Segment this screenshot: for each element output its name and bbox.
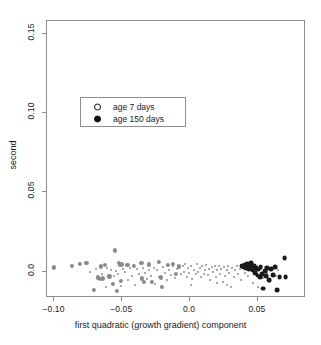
data-point [172, 265, 174, 267]
data-point [142, 267, 144, 269]
y-tick-label: 0.0 [26, 259, 36, 281]
data-point [153, 267, 155, 269]
data-point [166, 279, 168, 281]
data-point [89, 271, 91, 273]
data-point [247, 275, 249, 277]
data-point [186, 276, 188, 278]
data-point [157, 260, 161, 264]
data-point [272, 265, 277, 270]
data-point [283, 275, 288, 280]
data-point [191, 278, 193, 280]
data-point [110, 269, 112, 271]
data-point [160, 285, 164, 289]
data-point [146, 278, 148, 280]
data-point [228, 272, 230, 274]
data-point [144, 272, 146, 274]
data-point [195, 273, 197, 275]
data-point [227, 265, 229, 267]
data-point [131, 275, 133, 277]
data-point [233, 276, 235, 278]
data-point [183, 271, 185, 273]
data-point [101, 273, 103, 275]
data-point [208, 268, 210, 270]
x-axis-title: first quadratic (growth gradient) compon… [75, 320, 247, 330]
data-point [226, 269, 228, 271]
data-point [222, 281, 224, 283]
data-point [142, 280, 146, 284]
x-tick [53, 297, 54, 301]
data-point [244, 272, 246, 274]
data-point [236, 265, 238, 267]
data-point [261, 286, 266, 291]
data-point [113, 248, 117, 252]
data-point [119, 262, 123, 266]
data-point [127, 279, 129, 281]
data-point [148, 269, 150, 271]
data-point [78, 262, 82, 266]
y-tick [42, 191, 46, 192]
data-point [207, 274, 209, 276]
data-point [277, 269, 279, 271]
data-point [226, 284, 228, 286]
data-point [211, 266, 213, 268]
data-point [115, 289, 119, 293]
y-tick [42, 271, 46, 272]
data-point [118, 279, 122, 283]
data-point [240, 279, 242, 281]
x-tick-label: −0.05 [110, 304, 132, 314]
data-point [106, 267, 108, 269]
data-point [105, 286, 107, 288]
legend-label-age-150-days: age 150 days [113, 114, 164, 124]
x-tick-label: 0.0 [183, 304, 195, 314]
data-point [277, 274, 282, 279]
data-point [115, 270, 117, 272]
data-point [158, 276, 160, 278]
data-point [204, 269, 206, 271]
data-point [257, 286, 259, 288]
data-point [147, 262, 151, 266]
data-point [92, 288, 96, 292]
data-point [270, 273, 275, 278]
data-point [168, 269, 170, 271]
data-point [95, 268, 97, 270]
data-point [197, 271, 199, 273]
data-point [218, 265, 220, 267]
data-point [120, 285, 122, 287]
data-point [188, 272, 190, 274]
data-point [252, 282, 254, 284]
y-tick-label: 0.15 [26, 21, 36, 43]
data-point [111, 281, 115, 285]
filled-circle-icon [94, 115, 101, 122]
data-point [134, 284, 136, 286]
data-point [154, 283, 156, 285]
data-point [176, 268, 178, 270]
data-point [107, 274, 111, 278]
x-tick [257, 297, 258, 301]
y-tick-label: 0.05 [26, 179, 36, 201]
data-point [100, 276, 104, 280]
data-point [212, 271, 214, 273]
y-tick [42, 33, 46, 34]
y-axis-title: second [8, 140, 18, 169]
data-point [136, 268, 138, 270]
data-point [170, 274, 172, 276]
data-point [187, 267, 189, 269]
x-tick [189, 297, 190, 301]
data-point [174, 272, 178, 276]
data-point [237, 273, 239, 275]
data-point [52, 265, 56, 269]
data-point [209, 279, 211, 281]
data-point [190, 265, 192, 267]
data-point [190, 284, 192, 286]
data-point [201, 265, 203, 267]
data-point [203, 273, 205, 275]
data-point [70, 264, 74, 268]
data-point [231, 267, 233, 269]
data-point [214, 265, 216, 267]
data-point [156, 269, 158, 271]
data-point [200, 276, 202, 278]
data-point [122, 268, 124, 270]
y-tick-label: 0.10 [26, 100, 36, 122]
data-point [124, 271, 126, 273]
data-point [117, 273, 119, 275]
